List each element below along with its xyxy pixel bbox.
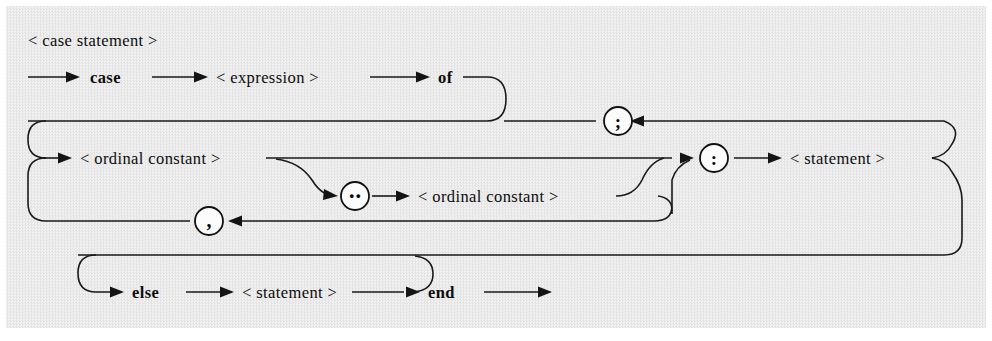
token-glyph-semicolon: ; xyxy=(615,111,621,132)
token-glyph-comma: , xyxy=(207,209,212,231)
terminal-of: of xyxy=(438,68,453,87)
token-glyph-range: ‥ xyxy=(348,180,361,202)
terminal-case: case xyxy=(90,68,121,87)
terminal-end: end xyxy=(428,283,455,302)
nonterminal-statement-case: < statement > xyxy=(790,149,885,168)
arrowhead-else-to-statement xyxy=(220,287,234,298)
arrowhead-case-to-expression xyxy=(194,72,208,83)
nonterminal-ordinal-constant-1: < ordinal constant > xyxy=(80,149,221,168)
nonterminal-statement-else: < statement > xyxy=(242,283,337,302)
arrowhead-expression-to-of xyxy=(416,72,430,83)
arrowhead-exit xyxy=(538,287,552,298)
nonterminal-expression: < expression > xyxy=(216,68,319,87)
arrowhead-range-to-ordinal2 xyxy=(396,191,410,202)
rail-left-spine-upper xyxy=(28,121,46,158)
arrowhead-to-else xyxy=(110,287,124,298)
arrowhead-to-ordinal-constant xyxy=(58,153,72,164)
arrowhead-to-range xyxy=(323,189,338,200)
rail-ordinal-to-range-branch xyxy=(276,159,326,194)
arrowhead-entry xyxy=(66,72,80,83)
terminal-else: else xyxy=(132,283,159,302)
rail-range-branch-to-comma-rail xyxy=(658,196,672,214)
rail-left-spine-lower xyxy=(28,158,46,221)
arrowhead-comma-return xyxy=(228,216,242,227)
rail-bottom-to-else xyxy=(78,255,112,292)
syntax-diagram: ; : ‥ , < case statement > case < expres… xyxy=(0,0,992,341)
arrowhead-colon-to-statement xyxy=(768,153,782,164)
diagram-title: < case statement > xyxy=(28,31,158,50)
token-glyph-colon: : xyxy=(711,148,717,169)
rail-ordinal2-rejoin-main xyxy=(616,158,664,196)
diagram-page: ; : ‥ , < case statement > case < expres… xyxy=(0,0,992,341)
nonterminal-ordinal-constant-2: < ordinal constant > xyxy=(418,187,559,206)
